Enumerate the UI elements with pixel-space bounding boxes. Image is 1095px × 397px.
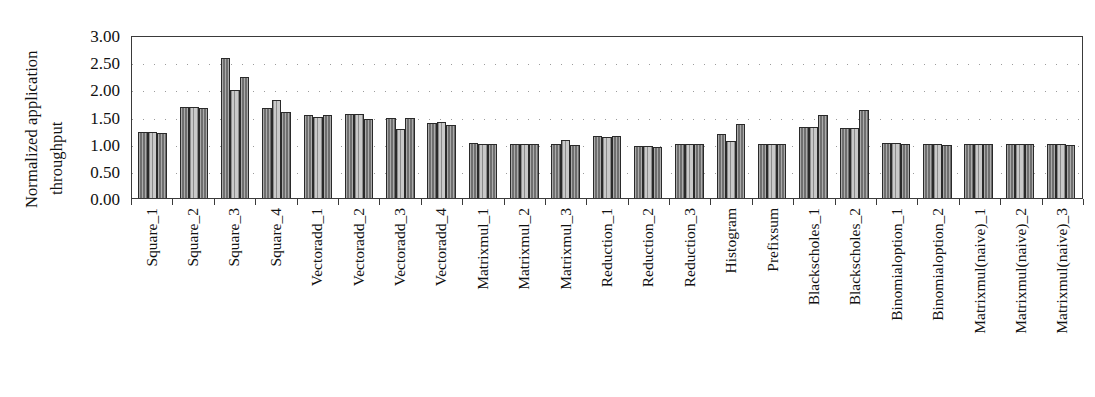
bar	[593, 136, 603, 198]
x-axis-label: Binomialoption_2	[929, 208, 947, 321]
y-axis-tick-label: 3.00	[90, 28, 120, 45]
bar	[726, 141, 736, 198]
x-axis-tick	[255, 199, 256, 205]
bar-group	[793, 37, 834, 198]
bar-group	[380, 37, 421, 198]
bar	[405, 118, 415, 198]
bar-group	[710, 37, 751, 198]
x-axis-label: Blackscholes_2	[846, 208, 864, 305]
bar	[469, 143, 479, 198]
bar	[983, 144, 993, 198]
bar	[818, 115, 828, 198]
bar-group	[338, 37, 379, 198]
bar	[1006, 144, 1016, 198]
bar	[758, 144, 768, 198]
bar-group	[1041, 37, 1082, 198]
bar	[767, 144, 777, 198]
bar-group	[586, 37, 627, 198]
bar-group	[462, 37, 503, 198]
bar	[386, 118, 396, 198]
bar-group	[875, 37, 916, 198]
x-axis-tick	[172, 199, 173, 205]
bar	[1066, 145, 1076, 198]
bar	[230, 90, 240, 198]
bar	[685, 144, 695, 198]
y-axis-tick-label: 1.50	[90, 110, 120, 127]
bar-group	[751, 37, 792, 198]
x-axis-tick	[628, 199, 629, 205]
bar-group	[215, 37, 256, 198]
bar	[923, 144, 933, 198]
x-axis-label-cell: Vectoradd_3	[379, 206, 420, 396]
bar-group	[628, 37, 669, 198]
x-axis-label: Reduction_2	[639, 208, 657, 287]
x-axis-tick	[214, 199, 215, 205]
bar-group	[958, 37, 999, 198]
bar	[1015, 144, 1025, 198]
x-axis-label: Vectoradd_3	[391, 208, 409, 286]
bar	[478, 144, 488, 198]
bar	[364, 119, 374, 198]
x-axis-label-cell: Matrixmul_2	[504, 206, 545, 396]
x-axis-label-cell: Blackscholes_2	[835, 206, 876, 396]
bar	[901, 144, 911, 198]
x-axis-label: Matrixmul_3	[557, 208, 575, 290]
x-axis-label-cell: Matrixmul(naive)_3	[1042, 206, 1083, 396]
x-axis-label: Vectoradd_2	[350, 208, 368, 286]
bar	[850, 128, 860, 198]
x-axis-label: Vectoradd_1	[308, 208, 326, 286]
x-axis-label-cell: Reduction_3	[669, 206, 710, 396]
x-axis-label: Vectoradd_4	[432, 208, 450, 286]
x-axis-label-cell: Vectoradd_4	[421, 206, 462, 396]
bar	[602, 137, 612, 198]
x-axis-label-cell: Blackscholes_1	[793, 206, 834, 396]
x-axis-label: Binomialoption_1	[888, 208, 906, 321]
x-axis-label: Matrixmul(naive)_3	[1053, 208, 1071, 334]
x-axis-tick	[710, 199, 711, 205]
x-axis-label: Prefixsum	[764, 208, 782, 272]
x-axis-tick	[131, 199, 132, 205]
bar	[634, 146, 644, 198]
bar	[643, 146, 653, 198]
bar	[189, 107, 199, 198]
x-axis-label: Square_3	[225, 208, 243, 267]
x-axis-label: Matrixmul_2	[515, 208, 533, 290]
bar	[777, 144, 787, 198]
chart-root: Normalized application throughput 3.002.…	[0, 0, 1095, 397]
bar	[882, 143, 892, 198]
bar	[427, 123, 437, 198]
bar-group	[256, 37, 297, 198]
x-axis-label: Matrixmul(naive)_2	[1012, 208, 1030, 334]
x-axis-tick	[669, 199, 670, 205]
bar-groups	[132, 37, 1082, 198]
bar	[1056, 144, 1066, 198]
x-axis-label-cell: Histogram	[710, 206, 751, 396]
bar	[570, 145, 580, 198]
x-axis-label-cell: Binomialoption_2	[917, 206, 958, 396]
bar	[437, 122, 447, 198]
y-axis-tick-label: 0.50	[90, 164, 120, 181]
bar-group	[504, 37, 545, 198]
y-axis-tick-label: 1.00	[90, 137, 120, 154]
bar	[840, 128, 850, 198]
bar	[551, 144, 561, 198]
bar	[891, 143, 901, 198]
x-axis-tick	[338, 199, 339, 205]
x-axis-tick-marks	[131, 199, 1083, 206]
y-axis-tick-label: 2.50	[90, 55, 120, 72]
bar	[446, 125, 456, 198]
x-axis-tick	[297, 199, 298, 205]
bar	[354, 114, 364, 198]
bar	[1047, 144, 1057, 198]
bar-group	[421, 37, 462, 198]
x-axis-label-cell: Prefixsum	[752, 206, 793, 396]
x-axis-tick	[504, 199, 505, 205]
bar	[221, 58, 231, 198]
bar-group	[999, 37, 1040, 198]
bar	[859, 110, 869, 198]
bar	[809, 127, 819, 198]
bar-group	[132, 37, 173, 198]
bar	[262, 108, 272, 198]
x-axis-label-cell: Square_3	[214, 206, 255, 396]
bar	[345, 114, 355, 198]
